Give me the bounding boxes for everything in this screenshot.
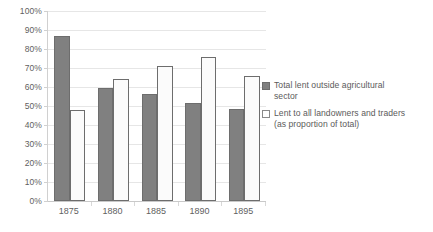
bar-1890-series-1 [201, 57, 217, 201]
bar-1880-series-0 [98, 88, 114, 201]
bar-group [229, 11, 260, 201]
bar-1895-series-1 [244, 76, 260, 201]
legend-label-series-1-line1: Lent to all landowners and traders [274, 108, 405, 118]
bar-group [185, 11, 216, 201]
legend-swatch-icon-series-0 [262, 82, 270, 90]
x-axis-tick-labels: 18751880188518901895 [47, 206, 265, 222]
bar-1875-series-1 [70, 110, 86, 201]
y-axis-tick-label: 80% [0, 45, 42, 54]
y-axis-tickmark [44, 201, 48, 202]
x-axis-tick-label: 1885 [134, 206, 178, 217]
bar-1895-series-0 [229, 109, 245, 201]
legend-label-series-0-line2: sector [274, 91, 298, 101]
gridline [48, 201, 266, 202]
bar-1890-series-0 [185, 103, 201, 201]
bar-1880-series-1 [113, 79, 129, 201]
bar-group [98, 11, 129, 201]
y-axis-tick-labels: 0%10%20%30%40%50%60%70%80%90%100% [0, 11, 42, 201]
legend-label-series-1: Lent to all landowners and traders (as p… [274, 108, 405, 130]
x-axis-tick-label: 1895 [221, 206, 265, 217]
y-axis-tick-label: 60% [0, 83, 42, 92]
plot-area [47, 11, 265, 201]
y-axis-tick-label: 20% [0, 159, 42, 168]
x-axis-tickmark [265, 202, 266, 206]
bar-group [54, 11, 85, 201]
x-axis-tick-label: 1875 [47, 206, 91, 217]
legend-item-series-1: Lent to all landowners and traders (as p… [262, 108, 433, 130]
bars-layer [48, 11, 266, 201]
legend-label-series-0: Total lent outside agricultural sector [274, 80, 384, 102]
y-axis-tick-label: 30% [0, 140, 42, 149]
legend-label-series-1-line2: (as proportion of total) [274, 119, 359, 129]
bar-chart: 0%10%20%30%40%50%60%70%80%90%100% 187518… [0, 0, 433, 232]
bar-1885-series-1 [157, 66, 173, 201]
legend-item-series-0: Total lent outside agricultural sector [262, 80, 433, 102]
x-axis-tick-label: 1880 [91, 206, 135, 217]
legend-swatch-icon-series-1 [262, 110, 270, 118]
y-axis-tick-label: 70% [0, 64, 42, 73]
chart-legend: Total lent outside agricultural sector L… [262, 80, 433, 136]
y-axis-tick-label: 0% [0, 197, 42, 206]
legend-label-series-0-line1: Total lent outside agricultural [274, 80, 384, 90]
bar-1875-series-0 [54, 36, 70, 201]
bar-group [142, 11, 173, 201]
y-axis-tick-label: 10% [0, 178, 42, 187]
bar-1885-series-0 [142, 94, 158, 201]
y-axis-tick-label: 90% [0, 26, 42, 35]
y-axis-tick-label: 50% [0, 102, 42, 111]
plot-wrapper: 0%10%20%30%40%50%60%70%80%90%100% 187518… [0, 0, 270, 232]
y-axis-tick-label: 40% [0, 121, 42, 130]
y-axis-tick-label: 100% [0, 7, 42, 16]
x-axis-tick-label: 1890 [178, 206, 222, 217]
